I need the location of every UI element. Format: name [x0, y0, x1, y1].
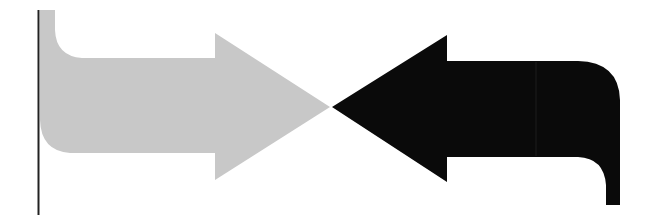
opposing-arrows-diagram	[0, 0, 659, 215]
right-pointing-arrow-icon	[40, 10, 330, 180]
left-pointing-arrow-icon	[332, 35, 620, 205]
diagram-svg	[0, 0, 659, 215]
